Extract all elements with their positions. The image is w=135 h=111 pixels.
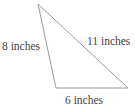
- triangle-figure: 8 inches 11 inches 6 inches: [0, 0, 135, 111]
- side-label-hypotenuse: 11 inches: [87, 35, 130, 48]
- side-label-base: 6 inches: [65, 94, 103, 107]
- side-label-left: 8 inches: [2, 40, 40, 53]
